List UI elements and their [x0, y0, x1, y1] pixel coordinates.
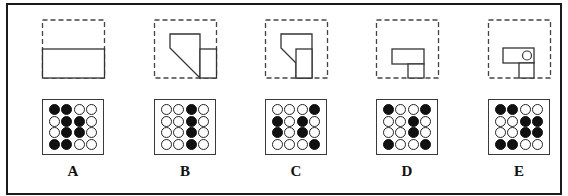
empty-dot-icon [495, 127, 506, 138]
empty-dot-icon [297, 104, 308, 115]
empty-dot-icon [395, 127, 406, 138]
filled-dot-icon [61, 104, 72, 115]
empty-dot-icon [161, 127, 172, 138]
empty-dot-icon [161, 139, 172, 150]
empty-dot-icon [507, 127, 518, 138]
filled-dot-icon [297, 127, 308, 138]
option-label-d: D [375, 163, 439, 180]
empty-dot-icon [507, 116, 518, 127]
filled-dot-icon [532, 127, 543, 138]
filled-dot-icon [309, 104, 320, 115]
filled-dot-icon [420, 139, 431, 150]
empty-dot-icon [395, 104, 406, 115]
empty-dot-icon [408, 139, 419, 150]
filled-dot-icon [74, 116, 85, 127]
option-label-e: E [487, 163, 551, 180]
filled-dot-icon [420, 104, 431, 115]
empty-dot-icon [395, 116, 406, 127]
filled-dot-icon [507, 104, 518, 115]
option-label-a: A [41, 163, 105, 180]
filled-dot-icon [520, 116, 531, 127]
filled-dot-icon [532, 116, 543, 127]
empty-dot-icon [532, 104, 543, 115]
empty-dot-icon [284, 127, 295, 138]
empty-dot-icon [284, 104, 295, 115]
dot-grid-b [154, 99, 216, 155]
empty-dot-icon [309, 116, 320, 127]
filled-dot-icon [186, 127, 197, 138]
dot-grid-a [42, 99, 104, 155]
option-label-b: B [153, 163, 217, 180]
empty-dot-icon [198, 139, 209, 150]
filled-dot-icon [74, 127, 85, 138]
empty-dot-icon [86, 127, 97, 138]
empty-dot-icon [86, 104, 97, 115]
empty-dot-icon [198, 127, 209, 138]
filled-dot-icon [186, 139, 197, 150]
empty-dot-icon [420, 127, 431, 138]
filled-dot-icon [309, 139, 320, 150]
filled-dot-icon [186, 116, 197, 127]
empty-dot-icon [383, 127, 394, 138]
empty-dot-icon [49, 127, 60, 138]
shape-c-icon [264, 18, 330, 80]
filled-dot-icon [49, 104, 60, 115]
empty-dot-icon [198, 104, 209, 115]
shape-e-icon [487, 18, 553, 80]
empty-dot-icon [520, 139, 531, 150]
empty-dot-icon [173, 127, 184, 138]
empty-dot-icon [198, 116, 209, 127]
filled-dot-icon [186, 104, 197, 115]
empty-dot-icon [297, 139, 308, 150]
filled-dot-icon [61, 139, 72, 150]
filled-dot-icon [495, 104, 506, 115]
dot-grid-e [488, 99, 550, 155]
empty-dot-icon [284, 139, 295, 150]
dot-grid-d [376, 99, 438, 155]
filled-dot-icon [272, 116, 283, 127]
empty-dot-icon [408, 104, 419, 115]
empty-dot-icon [49, 116, 60, 127]
empty-dot-icon [86, 139, 97, 150]
empty-dot-icon [86, 116, 97, 127]
empty-dot-icon [420, 116, 431, 127]
filled-dot-icon [408, 127, 419, 138]
shape-a-icon [41, 18, 107, 80]
empty-dot-icon [173, 104, 184, 115]
empty-dot-icon [74, 104, 85, 115]
empty-dot-icon [284, 116, 295, 127]
shape-b-icon [153, 18, 219, 80]
empty-dot-icon [173, 139, 184, 150]
empty-dot-icon [395, 139, 406, 150]
empty-dot-icon [520, 104, 531, 115]
filled-dot-icon [61, 116, 72, 127]
empty-dot-icon [495, 116, 506, 127]
filled-dot-icon [61, 127, 72, 138]
empty-dot-icon [272, 139, 283, 150]
filled-dot-icon [297, 116, 308, 127]
filled-dot-icon [408, 116, 419, 127]
empty-dot-icon [173, 116, 184, 127]
shape-d-icon [375, 18, 441, 80]
filled-dot-icon [49, 139, 60, 150]
dot-grid-c [265, 99, 327, 155]
filled-dot-icon [383, 104, 394, 115]
empty-dot-icon [383, 116, 394, 127]
filled-dot-icon [520, 127, 531, 138]
filled-dot-icon [495, 139, 506, 150]
empty-dot-icon [272, 104, 283, 115]
empty-dot-icon [161, 116, 172, 127]
filled-dot-icon [507, 139, 518, 150]
empty-dot-icon [161, 104, 172, 115]
empty-dot-icon [532, 139, 543, 150]
filled-dot-icon [272, 127, 283, 138]
empty-dot-icon [309, 127, 320, 138]
filled-dot-icon [383, 139, 394, 150]
empty-dot-icon [74, 139, 85, 150]
option-label-c: C [264, 163, 328, 180]
